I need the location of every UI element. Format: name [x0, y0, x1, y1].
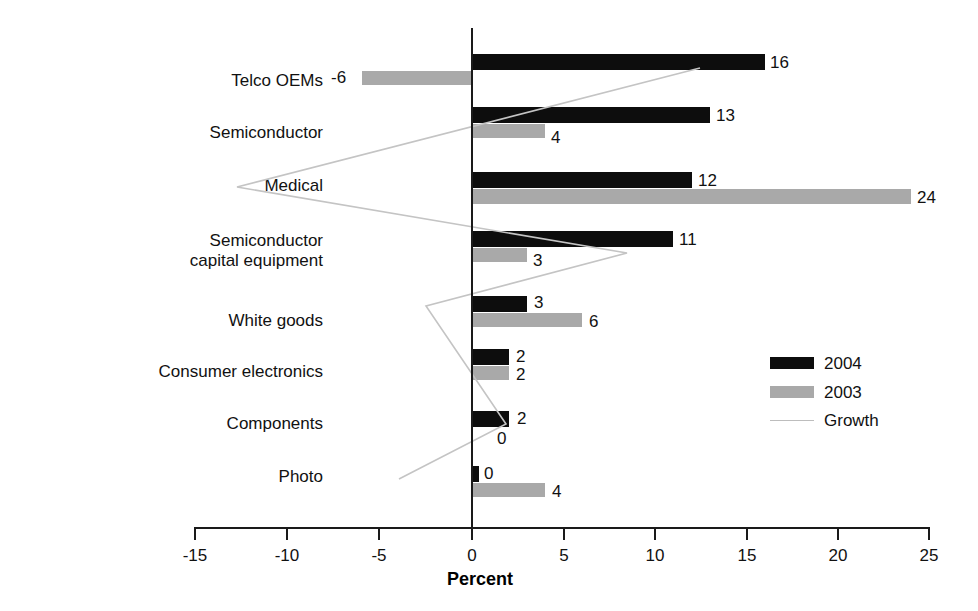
- x-tick-25: [928, 527, 930, 540]
- x-axis-title: Percent: [420, 569, 540, 590]
- legend-label-2003: 2003: [824, 384, 862, 401]
- x-tick--10: [286, 527, 288, 540]
- x-tick-label-0: 0: [442, 547, 502, 564]
- legend-swatch-growth: [770, 420, 814, 421]
- x-tick-label-25: 25: [899, 547, 959, 564]
- x-tick-20: [837, 527, 839, 540]
- bar-chart: Telco OEMs Semiconductor Medical Semicon…: [0, 0, 978, 611]
- legend-swatch-2003: [770, 386, 814, 398]
- x-axis-line: [194, 527, 929, 529]
- x-tick-label-15: 15: [717, 547, 777, 564]
- x-tick-5: [563, 527, 565, 540]
- x-tick-label--10: -10: [257, 547, 317, 564]
- x-tick-10: [654, 527, 656, 540]
- x-tick-15: [746, 527, 748, 540]
- x-tick-label--15: -15: [165, 547, 225, 564]
- zero-reference-line: [471, 28, 473, 528]
- growth-line: [0, 0, 978, 611]
- legend-label-2004: 2004: [824, 355, 862, 372]
- legend-label-growth: Growth: [824, 412, 879, 429]
- x-tick-label-20: 20: [808, 547, 868, 564]
- x-tick-label--5: -5: [349, 547, 409, 564]
- legend-swatch-2004: [770, 357, 814, 369]
- x-tick--15: [194, 527, 196, 540]
- x-tick--5: [378, 527, 380, 540]
- x-tick-label-10: 10: [625, 547, 685, 564]
- x-tick-label-5: 5: [534, 547, 594, 564]
- x-tick-0: [471, 527, 473, 540]
